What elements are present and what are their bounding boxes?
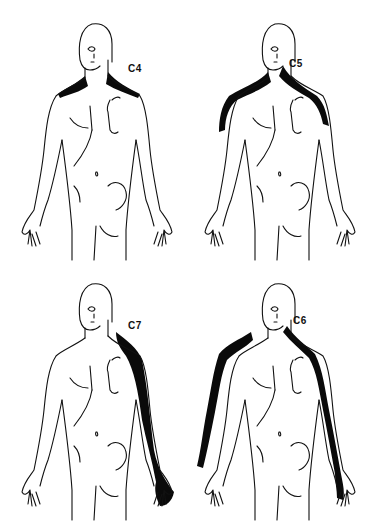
dermatome-label-c5: C5 xyxy=(289,58,303,69)
dermatome-shading-c4 xyxy=(58,72,140,98)
panel-c6: C6 xyxy=(183,260,366,520)
panel-c4: C4 xyxy=(0,0,183,260)
body-outline-c7 xyxy=(0,260,183,520)
body-outline-c5 xyxy=(183,0,366,260)
body-outline-c6 xyxy=(183,260,366,520)
dermatome-label-c4: C4 xyxy=(128,63,142,74)
body-outline-c4 xyxy=(0,0,183,260)
panel-c5: C5 xyxy=(183,0,366,260)
dermatome-shading-c7 xyxy=(116,332,174,506)
dermatome-label-c7: C7 xyxy=(128,320,142,331)
panel-c7: C7 xyxy=(0,260,183,520)
dermatome-label-c6: C6 xyxy=(293,315,307,326)
